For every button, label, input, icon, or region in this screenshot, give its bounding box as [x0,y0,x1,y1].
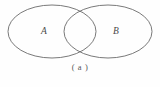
set-a-label: A [40,26,47,36]
venn-diagram-figure: A B ( a ) [0,0,160,87]
set-a-ellipse [8,5,96,58]
venn-diagram-canvas: A B [0,0,160,64]
figure-caption: ( a ) [0,62,160,72]
set-b-ellipse [64,5,152,58]
set-b-label: B [113,26,119,36]
